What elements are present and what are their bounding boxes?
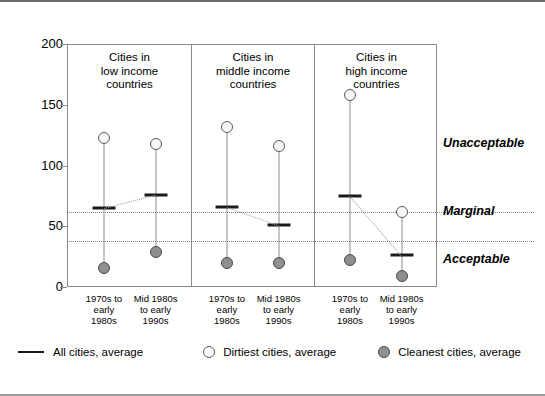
legend-label-dirtiest: Dirtiest cities, average xyxy=(223,346,336,358)
dirtiest-cities-marker xyxy=(344,89,356,101)
panel-title-low-income: Cities in low income countries xyxy=(68,51,191,92)
cleanest-cities-marker xyxy=(150,246,162,258)
panel-title-middle-income: Cities in middle income countries xyxy=(192,51,314,92)
y-tick-mark-50 xyxy=(60,226,67,227)
cleanest-cities-marker xyxy=(98,262,110,274)
threshold-line-marginal xyxy=(67,241,534,242)
panel-low-income: Cities in low income countries xyxy=(68,45,191,286)
chart-page: 200 150 100 50 0 Cities in low income co… xyxy=(0,0,545,396)
x-axis-label: Mid 1980s to early 1990s xyxy=(126,293,186,326)
y-tick-mark-200 xyxy=(60,44,67,45)
x-axis-label: Mid 1980s to early 1990s xyxy=(249,293,309,326)
y-tick-label-150: 150 xyxy=(0,97,63,112)
dirtiest-cities-marker xyxy=(98,132,110,144)
y-tick-mark-100 xyxy=(60,166,67,167)
band-label-acceptable: Acceptable xyxy=(443,252,510,266)
panel-middle-income: Cities in middle income countries xyxy=(191,45,314,286)
y-tick-label-200: 200 xyxy=(0,36,63,51)
x-axis-label: Mid 1980s to early 1990s xyxy=(372,293,432,326)
range-stem xyxy=(278,146,279,263)
line-swatch-icon xyxy=(18,351,44,354)
legend-label-all-cities: All cities, average xyxy=(53,346,143,358)
range-stem xyxy=(103,138,104,268)
range-stem xyxy=(155,144,156,252)
y-tick-label-0: 0 xyxy=(0,279,63,294)
cleanest-cities-marker xyxy=(273,257,285,269)
legend-item-dirtiest: Dirtiest cities, average xyxy=(203,346,336,358)
y-tick-label-50: 50 xyxy=(0,218,63,233)
dirtiest-cities-marker xyxy=(221,121,233,133)
cleanest-cities-marker xyxy=(344,254,356,266)
legend-label-cleanest: Cleanest cities, average xyxy=(398,346,521,358)
cleanest-cities-marker xyxy=(396,270,408,282)
dirtiest-cities-marker xyxy=(273,140,285,152)
panel-title-high-income: Cities in high income countries xyxy=(315,51,438,92)
y-tick-label-100: 100 xyxy=(0,158,63,173)
legend-item-cleanest: Cleanest cities, average xyxy=(378,346,521,358)
dirtiest-cities-marker xyxy=(396,206,408,218)
plot-area: Cities in low income countries Cities in… xyxy=(67,44,437,287)
range-stem xyxy=(401,212,402,276)
y-tick-mark-150 xyxy=(60,105,67,106)
band-label-marginal: Marginal xyxy=(443,204,494,218)
open-circle-icon xyxy=(203,346,215,358)
panel-high-income: Cities in high income countries xyxy=(314,45,438,286)
range-stem xyxy=(349,95,350,260)
band-label-unacceptable: Unacceptable xyxy=(443,136,524,150)
chart-legend: All cities, average Dirtiest cities, ave… xyxy=(18,343,523,361)
filled-circle-icon xyxy=(378,346,390,358)
legend-item-all-cities: All cities, average xyxy=(18,346,143,358)
range-stem xyxy=(226,127,227,263)
cleanest-cities-marker xyxy=(221,257,233,269)
y-tick-mark-0 xyxy=(60,287,67,288)
dirtiest-cities-marker xyxy=(150,138,162,150)
